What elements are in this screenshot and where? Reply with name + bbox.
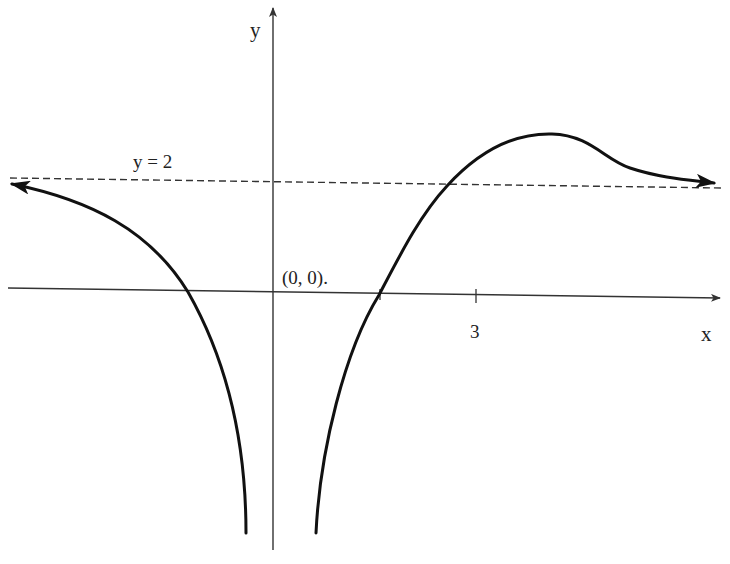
- left-branch-curve: [12, 184, 246, 533]
- asymptote-y2-dashed-line: [10, 178, 722, 188]
- asymptote-label: y = 2: [133, 152, 172, 171]
- y-axis-label: y: [250, 20, 261, 41]
- function-graph: [0, 0, 730, 564]
- right-branch-curve: [316, 134, 714, 533]
- x-axis-label: x: [701, 324, 712, 345]
- origin-label: (0, 0).: [282, 268, 328, 287]
- x-tick-label-3: 3: [470, 322, 480, 341]
- x-axis: [8, 288, 720, 298]
